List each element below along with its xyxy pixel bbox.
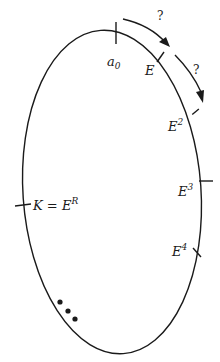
question-label-2: ? — [193, 63, 199, 77]
label-E2: E2 — [167, 117, 184, 134]
tick-E — [157, 52, 164, 62]
continuation-dot-2 — [65, 308, 70, 313]
tick-E2 — [192, 108, 199, 116]
arrow-head-2-icon — [196, 90, 204, 103]
label-E: E — [144, 63, 155, 78]
tick-K — [15, 204, 31, 206]
label-E4: E4 — [171, 242, 188, 259]
label-K: K = ER — [32, 196, 78, 213]
question-label-1: ? — [157, 9, 163, 23]
cycle-diagram: ? ? a0 E E2 E3 E4 K = ER — [0, 0, 220, 362]
label-a0: a0 — [107, 54, 121, 71]
continuation-dot-1 — [57, 299, 62, 304]
continuation-dot-3 — [72, 316, 77, 321]
label-E3: E3 — [177, 182, 194, 199]
